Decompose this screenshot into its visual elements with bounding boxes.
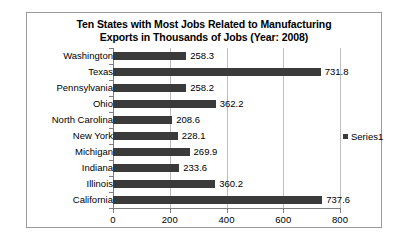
bar-row: 233.6 (113, 160, 340, 176)
y-axis-tick (109, 64, 113, 65)
bar-value-label: 269.9 (194, 145, 218, 158)
x-axis-tick-label: 600 (263, 214, 303, 226)
bar-row: 362.2 (113, 96, 340, 112)
category-label-pennsylvania: Pennsylvania (25, 80, 113, 96)
legend-marker-series1 (343, 134, 348, 139)
y-axis-tick (109, 176, 113, 177)
bar-texas[interactable] (113, 68, 321, 76)
chart-container: Ten States with Most Jobs Related to Man… (26, 12, 382, 228)
y-axis-tick (109, 48, 113, 49)
x-axis-tick (283, 209, 284, 213)
bar-ohio[interactable] (113, 100, 216, 108)
bar-row: 258.3 (113, 48, 340, 64)
bar-value-label: 228.1 (182, 129, 206, 142)
bar-value-label: 208.6 (176, 113, 200, 126)
bar-illinois[interactable] (113, 180, 215, 188)
y-axis-tick (109, 112, 113, 113)
category-label-north-carolina: North Carolina (25, 112, 113, 128)
bar-row: 208.6 (113, 112, 340, 128)
x-axis-tick (340, 209, 341, 213)
bar-michigan[interactable] (113, 148, 190, 156)
category-label-california: California (25, 192, 113, 208)
x-axis-tick (227, 209, 228, 213)
y-axis-tick (109, 160, 113, 161)
chart-title: Ten States with Most Jobs Related to Man… (27, 18, 381, 44)
x-axis-tick (170, 209, 171, 213)
y-axis-tick (109, 208, 113, 209)
x-axis-tick-label: 0 (93, 214, 133, 226)
y-axis-tick (109, 80, 113, 81)
category-label-new-york: New York (25, 128, 113, 144)
bar-row: 360.2 (113, 176, 340, 192)
y-axis-tick (109, 96, 113, 97)
bar-row: 258.2 (113, 80, 340, 96)
y-axis-tick (109, 128, 113, 129)
bar-washington[interactable] (113, 52, 186, 60)
category-label-washington: Washington (25, 48, 113, 64)
bar-value-label: 362.2 (220, 97, 244, 110)
bar-row: 737.6 (113, 192, 340, 208)
chart-legend: Series1 (343, 131, 383, 142)
bar-north-carolina[interactable] (113, 116, 172, 124)
x-axis-tick-label: 400 (207, 214, 247, 226)
x-axis-tick-label: 200 (150, 214, 190, 226)
bar-row: 228.1 (113, 128, 340, 144)
x-axis-tick (113, 209, 114, 213)
category-label-texas: Texas (25, 64, 113, 80)
bar-row: 731.8 (113, 64, 340, 80)
bar-value-label: 737.6 (326, 193, 350, 206)
bar-value-label: 258.3 (190, 49, 214, 62)
y-axis-tick (109, 144, 113, 145)
bar-value-label: 360.2 (219, 177, 243, 190)
x-axis-tick-label: 800 (320, 214, 360, 226)
category-label-indiana: Indiana (25, 160, 113, 176)
category-label-ohio: Ohio (25, 96, 113, 112)
bar-value-label: 258.2 (190, 81, 214, 94)
bar-indiana[interactable] (113, 164, 179, 172)
chart-title-line-2: Exports in Thousands of Jobs (Year: 2008… (27, 31, 381, 44)
bar-row: 269.9 (113, 144, 340, 160)
bar-california[interactable] (113, 196, 322, 204)
plot-area: WashingtonTexasPennsylvaniaOhioNorth Car… (113, 48, 340, 208)
legend-label-series1: Series1 (351, 131, 383, 142)
chart-title-line-1: Ten States with Most Jobs Related to Man… (27, 18, 381, 31)
bar-pennsylvania[interactable] (113, 84, 186, 92)
y-axis-tick (109, 192, 113, 193)
category-label-illinois: Illinois (25, 176, 113, 192)
bar-new-york[interactable] (113, 132, 178, 140)
category-label-michigan: Michigan (25, 144, 113, 160)
bar-value-label: 731.8 (325, 65, 349, 78)
category-axis: WashingtonTexasPennsylvaniaOhioNorth Car… (21, 48, 113, 208)
bar-value-label: 233.6 (183, 161, 207, 174)
